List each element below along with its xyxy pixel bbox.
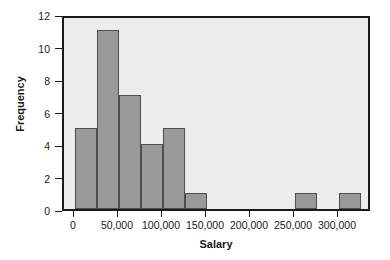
histogram-bar (75, 128, 97, 209)
x-axis-tick (293, 211, 294, 217)
x-axis-tick (161, 211, 162, 217)
histogram-bar (295, 193, 317, 209)
y-axis-tick-label: 2 (10, 174, 50, 184)
x-axis-tick-label: 300,000 (302, 219, 372, 231)
y-axis-tick-label: 0 (10, 206, 50, 216)
y-axis-tick (55, 16, 62, 17)
y-axis-tick-label: 4 (10, 141, 50, 151)
histogram-bar (185, 193, 207, 209)
x-axis-tick (337, 211, 338, 217)
histogram-bar (119, 95, 141, 209)
plot-area (62, 16, 370, 211)
x-axis-tick (73, 211, 74, 217)
y-axis-tick (55, 48, 62, 49)
histogram-bar (141, 144, 163, 209)
y-axis-tick-label: 8 (10, 76, 50, 86)
y-axis-tick (55, 113, 62, 114)
y-axis-tick (55, 146, 62, 147)
histogram-bar (163, 128, 185, 209)
y-axis-tick-label: 6 (10, 109, 50, 119)
y-axis-tick (55, 81, 62, 82)
bars-container (64, 18, 368, 209)
y-axis-tick (55, 178, 62, 179)
y-axis-tick (55, 211, 62, 212)
histogram-figure: Frequency 024681012 050,000100,000150,00… (0, 0, 390, 260)
x-axis-tick (205, 211, 206, 217)
x-axis-title: Salary (62, 238, 370, 250)
y-axis-title: Frequency (14, 59, 26, 149)
y-axis-tick-label: 10 (10, 44, 50, 54)
x-axis-tick (249, 211, 250, 217)
x-axis-tick (117, 211, 118, 217)
histogram-bar (97, 30, 119, 209)
y-axis-tick-label: 12 (10, 11, 50, 21)
histogram-bar (339, 193, 361, 209)
